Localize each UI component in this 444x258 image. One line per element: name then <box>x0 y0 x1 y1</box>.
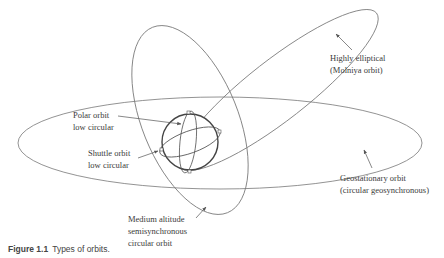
polar-label-line2: low circular <box>73 121 114 133</box>
figure-caption-number: Figure 1.1 <box>8 244 48 254</box>
shuttle-label-line1: Shuttle orbit <box>88 147 130 159</box>
shuttle-leader-arrow <box>138 151 158 158</box>
geostationary-label-line1: Geostationary orbit <box>340 172 429 184</box>
medium-leader-arrow <box>196 207 206 218</box>
molniya-label-line2: (Molniya orbit) <box>330 64 385 76</box>
figure-caption: Figure 1.1Types of orbits. <box>8 244 110 254</box>
molniya-label-line1: Highly elliptical <box>330 52 385 64</box>
orbit-diagram <box>0 0 444 258</box>
figure-caption-text: Types of orbits. <box>52 244 110 254</box>
shuttle-label: Shuttle orbit low circular <box>88 147 130 171</box>
polar-label-line1: Polar orbit <box>73 109 114 121</box>
medium-label: Medium altitude semisynchronous circular… <box>128 213 187 249</box>
geostationary-label-line2: (circular geosynchronous) <box>340 184 429 196</box>
shuttle-label-line2: low circular <box>88 159 130 171</box>
medium-label-line3: circular orbit <box>128 237 187 249</box>
medium-label-line1: Medium altitude <box>128 213 187 225</box>
molniya-leader-arrow <box>336 34 352 50</box>
polar-leader-arrow <box>118 116 181 124</box>
geostationary-leader-arrow <box>364 150 372 168</box>
medium-label-line2: semisynchronous <box>128 225 187 237</box>
polar-label: Polar orbit low circular <box>73 109 114 133</box>
molniya-label: Highly elliptical (Molniya orbit) <box>330 52 385 76</box>
geostationary-label: Geostationary orbit (circular geosynchro… <box>340 172 429 196</box>
